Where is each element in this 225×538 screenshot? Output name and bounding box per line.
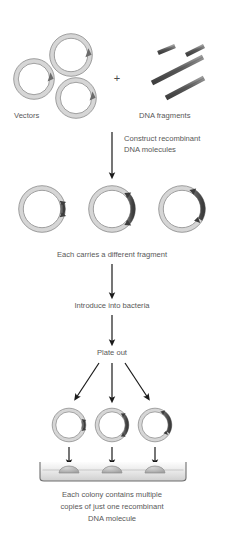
transformed-plasmid — [52, 408, 86, 442]
plate-out-label: Plate out — [97, 348, 128, 357]
dna-fragments-group: DNA fragments — [139, 46, 204, 120]
recombinant-plasmid — [159, 186, 206, 233]
dna-fragment — [152, 57, 203, 83]
petri-dish — [40, 462, 186, 481]
transformed-plasmid — [95, 408, 129, 442]
vector-plasmid — [50, 34, 93, 77]
transformed-plasmid — [138, 408, 172, 442]
colony-arrows-group — [69, 447, 155, 463]
caption-line2: copies of just one recombinant — [61, 502, 165, 511]
recombinant-plasmids-group: Each carries a different fragment — [19, 186, 206, 259]
vectors-group: Vectors — [14, 34, 97, 120]
caption-line1: Each colony contains multiple — [62, 490, 162, 499]
recombinant-plasmid — [19, 186, 66, 233]
dna-fragments-label: DNA fragments — [139, 111, 191, 120]
construct-label-line1: Construct recombinant — [124, 134, 201, 143]
split-arrows-group — [76, 363, 148, 400]
caption-line3: DNA molecule — [88, 514, 136, 523]
arrow-split-left-icon — [76, 363, 99, 398]
dna-fragment — [158, 46, 175, 53]
dna-fragment — [166, 78, 204, 98]
construct-step: Construct recombinant DNA molecules — [112, 132, 201, 176]
construct-label-line2: DNA molecules — [124, 145, 176, 154]
arrow-split-right-icon — [125, 363, 148, 398]
vector-plasmid — [56, 78, 97, 119]
transformed-plasmids-group — [52, 408, 172, 442]
each-carries-label: Each carries a different fragment — [57, 250, 168, 259]
caption-group: Each colony contains multiple copies of … — [61, 490, 165, 523]
introduce-label: Introduce into bacteria — [74, 301, 150, 310]
workflow-svg: Vectors + DNA fragments — [0, 0, 225, 538]
plus-symbol: + — [114, 72, 120, 84]
plate-out-step: Plate out — [97, 315, 128, 357]
cloning-workflow-diagram: Vectors + DNA fragments — [0, 0, 225, 538]
vector-plasmid — [14, 59, 55, 100]
recombinant-plasmid — [89, 186, 136, 233]
dna-fragment — [186, 46, 204, 55]
introduce-step: Introduce into bacteria — [74, 264, 150, 310]
vectors-label: Vectors — [14, 111, 40, 120]
